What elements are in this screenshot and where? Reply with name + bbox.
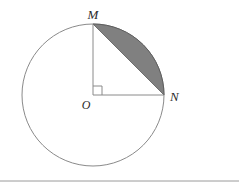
label-point-o: O	[82, 98, 91, 112]
figure-container: M N O	[0, 0, 239, 188]
right-angle-marker	[93, 86, 102, 95]
label-point-m: M	[87, 7, 100, 22]
label-point-n: N	[169, 89, 180, 104]
geometry-diagram: M N O	[0, 0, 239, 188]
